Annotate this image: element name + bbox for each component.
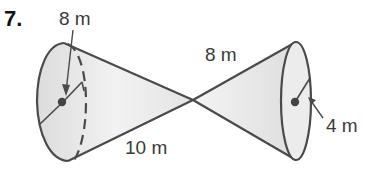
double-cone-figure: 7. 8 m 8 m 10 m 4 m	[0, 0, 365, 170]
left-center-dot	[58, 98, 66, 106]
right-radius-label: 4 m	[326, 116, 358, 135]
right-slant-label: 8 m	[205, 45, 237, 64]
left-slant-label: 10 m	[125, 138, 167, 157]
left-cone	[37, 30, 193, 161]
cone-diagram	[0, 0, 365, 170]
right-center-dot	[291, 98, 299, 106]
problem-number: 7.	[4, 8, 22, 30]
left-radius-label: 8 m	[59, 9, 91, 28]
